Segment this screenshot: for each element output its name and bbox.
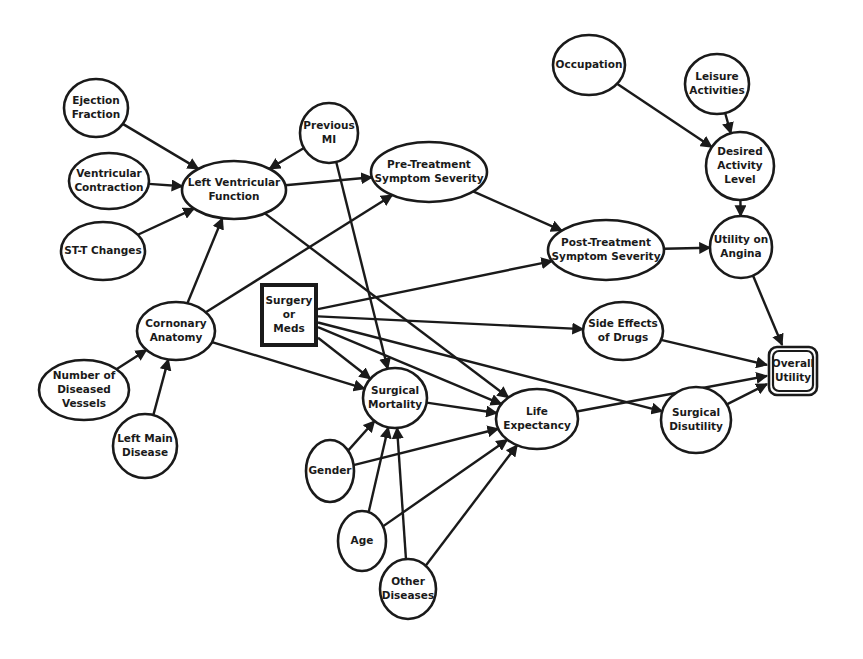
edge-surgical-mortality-to-life-expectancy: [427, 403, 497, 413]
node-label: Ventricular: [76, 167, 142, 179]
edge-leisure-activities-to-desired-activity-level: [725, 113, 731, 133]
node-label: Post-Treatment: [561, 236, 651, 248]
node-label: Diseased: [57, 383, 111, 395]
node-label: Surgical: [672, 406, 720, 418]
edge-number-of-diseased-vessels-to-cornonary-anatomy: [116, 350, 146, 369]
nodes-layer: EjectionFractionVentricularContractionST…: [39, 35, 817, 619]
edge-previous-mi-to-left-ventricular-function: [269, 148, 304, 169]
node-label: Previous: [303, 119, 354, 131]
node-label: Meds: [273, 322, 304, 334]
node-label: Side Effects: [588, 317, 658, 329]
node-pre-treatment-symptom-severity: Pre-TreatmentSymptom Severity: [371, 142, 487, 202]
node-leisure-activities: LeisureActivities: [685, 54, 749, 114]
node-label: Activities: [689, 84, 744, 96]
node-label: Utility: [775, 371, 811, 383]
edge-surgery-or-meds-to-post-treatment-symptom-severity: [318, 261, 552, 309]
node-number-of-diseased-vessels: Number ofDiseasedVessels: [39, 360, 129, 420]
node-label: Angina: [720, 247, 761, 259]
node-label: Contraction: [74, 181, 143, 193]
node-label: Level: [724, 173, 755, 185]
node-label: Left Ventricular: [188, 176, 281, 188]
node-label: Utility on: [714, 233, 769, 245]
node-label: Diseases: [382, 589, 434, 601]
influence-diagram: EjectionFractionVentricularContractionST…: [0, 0, 863, 659]
node-label: Function: [208, 190, 259, 202]
node-label: or: [283, 308, 296, 320]
node-label: Gender: [308, 464, 352, 476]
node-label: Cornonary: [145, 317, 207, 329]
node-label: Fraction: [72, 108, 120, 120]
node-label: Vessels: [62, 397, 106, 409]
edge-st-t-changes-to-left-ventricular-function: [138, 209, 194, 235]
node-label: Overall: [772, 357, 814, 369]
node-post-treatment-symptom-severity: Post-TreatmentSymptom Severity: [548, 220, 664, 280]
node-overall-utility: OverallUtility: [769, 347, 817, 395]
edge-cornonary-anatomy-to-surgical-mortality: [212, 342, 365, 389]
node-label: Anatomy: [150, 331, 203, 343]
node-cornonary-anatomy: CornonaryAnatomy: [137, 302, 215, 360]
edge-ventricular-contraction-to-left-ventricular-function: [149, 184, 183, 186]
edge-post-treatment-symptom-severity-to-utility-on-angina: [664, 248, 710, 249]
node-label: Leisure: [695, 70, 738, 82]
edge-surgery-or-meds-to-side-effects-of-drugs: [318, 316, 583, 329]
edge-left-main-disease-to-cornonary-anatomy: [153, 359, 168, 415]
node-label: Other: [391, 575, 426, 587]
node-label: Disutility: [669, 420, 723, 432]
node-age: Age: [338, 511, 386, 571]
edge-age-to-surgical-mortality: [369, 427, 389, 512]
node-label: Number of: [53, 369, 116, 381]
edge-utility-on-angina-to-overall-utility: [753, 276, 782, 345]
edge-gender-to-surgical-mortality: [348, 421, 374, 451]
edge-pre-treatment-symptom-severity-to-post-treatment-symptom-severity: [473, 191, 562, 230]
node-occupation: Occupation: [553, 35, 625, 95]
node-desired-activity-level: DesiredActivityLevel: [706, 132, 774, 200]
edge-cornonary-anatomy-to-left-ventricular-function: [187, 218, 222, 303]
edge-surgery-or-meds-to-surgical-mortality: [318, 338, 370, 379]
node-label: Occupation: [556, 58, 623, 70]
node-label: Ejection: [72, 94, 119, 106]
node-surgical-mortality: SurgicalMortality: [363, 368, 427, 428]
node-label: Mortality: [368, 398, 422, 410]
node-label: Left Main: [117, 432, 173, 444]
node-ventricular-contraction: VentricularContraction: [69, 153, 149, 209]
node-label: Surgical: [371, 384, 419, 396]
node-label: Symptom Severity: [375, 172, 484, 184]
node-label: of Drugs: [598, 331, 649, 343]
edge-surgical-disutility-to-overall-utility: [727, 384, 767, 404]
node-left-main-disease: Left MainDisease: [113, 414, 177, 478]
node-label: Activity: [717, 159, 762, 171]
node-label: Life: [526, 405, 548, 417]
node-label: Expectancy: [503, 419, 571, 431]
node-previous-mi: PreviousMI: [300, 103, 358, 163]
node-label: Desired: [717, 145, 763, 157]
edge-other-diseases-to-surgical-mortality: [397, 428, 406, 559]
edge-side-effects-of-drugs-to-overall-utility: [661, 340, 767, 365]
node-other-diseases: OtherDiseases: [380, 559, 436, 619]
node-life-expectancy: LifeExpectancy: [496, 389, 578, 449]
node-label: Surgery: [266, 294, 313, 306]
node-gender: Gender: [306, 440, 354, 502]
edge-gender-to-life-expectancy: [354, 429, 499, 465]
edge-left-ventricular-function-to-pre-treatment-symptom-severity: [285, 177, 372, 185]
node-label: Disease: [122, 446, 168, 458]
node-utility-on-angina: Utility onAngina: [710, 216, 772, 278]
node-label: Age: [351, 534, 374, 546]
node-label: ST-T Changes: [64, 244, 141, 256]
node-label: MI: [322, 133, 336, 145]
node-label: Pre-Treatment: [387, 158, 471, 170]
node-surgical-disutility: SurgicalDisutility: [661, 387, 731, 453]
node-side-effects-of-drugs: Side Effectsof Drugs: [583, 302, 663, 360]
node-label: Symptom Severity: [552, 250, 661, 262]
node-st-t-changes: ST-T Changes: [61, 222, 145, 280]
node-ejection-fraction: EjectionFraction: [64, 79, 128, 137]
node-left-ventricular-function: Left VentricularFunction: [182, 161, 286, 219]
node-surgery-or-meds: SurgeryorMeds: [262, 285, 316, 345]
